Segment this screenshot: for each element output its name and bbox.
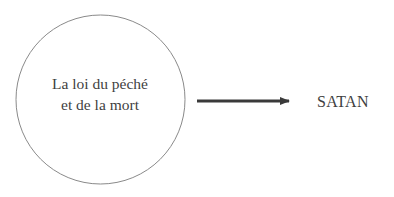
source-node-line-1: La loi du péché bbox=[52, 75, 148, 92]
source-node-line-2: et de la mort bbox=[61, 96, 140, 113]
diagram-canvas: La loi du péché et de la mort SATAN bbox=[0, 0, 394, 197]
target-node-label: SATAN bbox=[317, 93, 369, 110]
source-node: La loi du péché et de la mort bbox=[16, 15, 185, 184]
